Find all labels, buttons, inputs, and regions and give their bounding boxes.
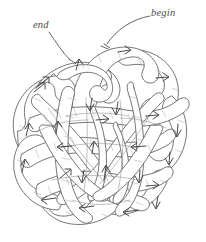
leader-line-end: [49, 32, 70, 60]
knot-figure: end begin: [0, 0, 206, 242]
label-begin: begin: [151, 8, 175, 19]
leader-line-begin: [107, 16, 150, 44]
knot-drawing: [0, 0, 206, 242]
knot-bands: [13, 47, 189, 224]
label-end: end: [33, 20, 49, 31]
